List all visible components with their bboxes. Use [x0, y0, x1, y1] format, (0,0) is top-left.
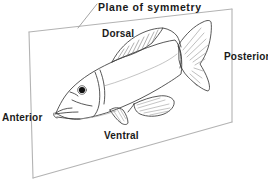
fish-body-outline: [56, 40, 182, 119]
fish-lateral-line: [104, 54, 177, 86]
label-posterior: Posterior: [224, 52, 268, 62]
plane-left-edge: [29, 32, 33, 178]
fish-nostril-line: [70, 92, 78, 96]
fish-gill-cover: [93, 72, 100, 117]
label-ventral: Ventral: [104, 131, 139, 141]
fish-fin-base-line: [128, 104, 134, 112]
fish-mouth-line: [55, 112, 78, 114]
label-dorsal: Dorsal: [102, 29, 134, 39]
fish-gill-cover-inner: [100, 70, 105, 104]
fish-eye: [79, 87, 85, 93]
fish-cheek-line: [72, 100, 92, 106]
fish-lower-jaw: [57, 117, 80, 119]
figure-canvas: [0, 0, 268, 185]
label-plane-of-symmetry: Plane of symmetry: [98, 2, 202, 13]
plane-of-symmetry-figure: Plane of symmetry Dorsal Anterior Poster…: [0, 0, 268, 185]
label-anterior: Anterior: [2, 113, 43, 123]
